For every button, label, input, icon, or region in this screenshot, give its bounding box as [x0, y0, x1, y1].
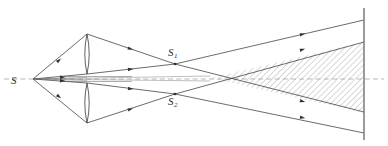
image-point-s2-marker	[174, 93, 177, 96]
image-point-s2-label: S2	[168, 95, 178, 109]
lower-lens-half	[85, 83, 89, 123]
arrow-screenward-upper-mid	[300, 47, 306, 52]
upper-lens-half	[85, 34, 89, 74]
optics-figure: S S1 S2	[0, 0, 388, 146]
s1-subscript: 1	[174, 52, 178, 60]
hatched-interference-region	[210, 42, 364, 113]
source-label: S	[11, 74, 17, 86]
image-point-s1-label: S1	[168, 46, 177, 60]
arrow-upper-inner	[128, 67, 134, 71]
arrow-screenward-top	[300, 32, 306, 37]
s2-subscript: 2	[174, 101, 178, 109]
image-point-s1-marker	[174, 63, 177, 66]
arrow-lower-outer	[127, 107, 133, 112]
arrow-incident-top	[56, 57, 62, 63]
ray-incident-bottom	[33, 79, 87, 123]
arrow-screenward-bottom	[300, 116, 306, 120]
arrow-screenward-lower-mid	[300, 99, 306, 104]
ray-diagram-canvas: S S1 S2	[0, 0, 388, 146]
ray-incident-top	[33, 34, 87, 79]
arrow-upper-outer	[127, 46, 133, 51]
